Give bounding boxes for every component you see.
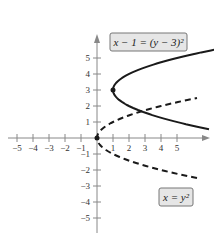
y-tick-label: 4 [86,69,91,79]
x-tick-label: 1 [111,143,116,153]
y-tick-label: −4 [80,197,90,207]
svg-text:x − 1 = (y − 3)²: x − 1 = (y − 3)² [112,36,184,49]
y-tick-label: 3 [86,85,91,95]
x-tick-label: 4 [159,143,164,153]
curve-shifted-parabola [113,48,214,129]
x-tick-label: 3 [143,143,148,153]
y-tick-label: −2 [80,165,90,175]
y-tick-label: −3 [80,181,90,191]
y-axis-arrow-icon [94,34,100,43]
x-axis-arrow-icon [202,135,210,141]
vertex-point [111,88,116,93]
x-tick-label: −5 [12,143,22,153]
x-tick-label: −2 [60,143,70,153]
x-tick-label: 2 [127,143,132,153]
x-tick-label: −3 [44,143,54,153]
parabola-chart: −5−4−3−2−112345−5−4−3−2−112345x − 1 = (y… [0,0,214,234]
y-tick-label: 1 [86,117,91,127]
y-tick-label: −1 [80,149,90,159]
y-tick-label: 5 [86,53,91,63]
y-tick-label: −5 [80,213,90,223]
y-tick-label: 2 [86,101,91,111]
svg-text:x = y²: x = y² [162,191,190,203]
curve1-label-box: x − 1 = (y − 3)² [110,33,187,51]
curve2-label-box: x = y² [159,188,193,206]
x-tick-label: −4 [28,143,38,153]
origin-point [95,136,100,141]
x-tick-label: 5 [175,143,180,153]
